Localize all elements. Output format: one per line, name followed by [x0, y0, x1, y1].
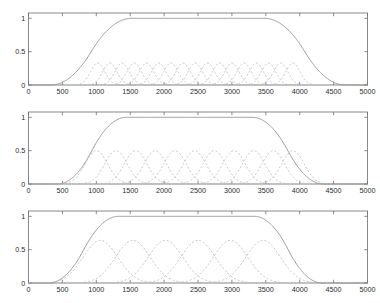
- x-tick-label: 500: [56, 186, 68, 195]
- x-tick-label: 4000: [292, 87, 308, 96]
- membership-function-curve: [92, 63, 152, 85]
- membership-function-curve: [239, 63, 299, 85]
- x-tick-label: 1500: [122, 87, 138, 96]
- subplot-2-axes: 0500100015002000250030003500400045005000…: [0, 101, 380, 201]
- x-tick-label: 4500: [326, 186, 342, 195]
- membership-function-curve: [93, 240, 238, 283]
- x-tick-label: 0: [27, 285, 31, 294]
- x-tick-label: 3500: [258, 186, 274, 195]
- x-tick-label: 0: [27, 87, 31, 96]
- x-tick-label: 4000: [292, 186, 308, 195]
- y-tick-label: 0.5: [15, 146, 25, 155]
- x-tick-label: 2500: [190, 186, 206, 195]
- x-tick-label: 1500: [122, 186, 138, 195]
- x-tick-label: 5000: [360, 285, 376, 294]
- subplot-1: 0500100015002000250030003500400045005000…: [0, 2, 380, 102]
- y-tick-label: 0: [21, 279, 25, 288]
- membership-function-curve: [104, 63, 164, 85]
- membership-function-curve: [80, 63, 140, 85]
- membership-function-curve: [29, 240, 173, 283]
- membership-function-curve: [226, 63, 286, 85]
- y-tick-label: 0: [21, 81, 25, 90]
- membership-function-curve: [141, 63, 201, 85]
- membership-function-curve: [129, 63, 189, 85]
- x-tick-label: 2500: [190, 87, 206, 96]
- membership-function-curve: [125, 240, 270, 283]
- membership-function-curve: [165, 63, 225, 85]
- x-tick-label: 3500: [258, 285, 274, 294]
- x-tick-label: 0: [27, 186, 31, 195]
- membership-function-curve: [153, 63, 213, 85]
- subplot-2: 0500100015002000250030003500400045005000…: [0, 101, 380, 201]
- membership-function-curve: [68, 63, 128, 85]
- x-tick-label: 1500: [122, 285, 138, 294]
- x-tick-label: 3500: [258, 87, 274, 96]
- y-tick-label: 0: [21, 180, 25, 189]
- x-tick-label: 500: [56, 87, 68, 96]
- membership-function-curve: [158, 240, 303, 283]
- y-tick-label: 0.5: [15, 47, 25, 56]
- subplot-1-axes: 0500100015002000250030003500400045005000…: [0, 2, 380, 102]
- membership-function-curve: [214, 63, 274, 85]
- x-tick-label: 5000: [360, 87, 376, 96]
- envelope-curve: [29, 18, 368, 85]
- x-tick-label: 4500: [326, 87, 342, 96]
- membership-function-curve: [178, 63, 238, 85]
- membership-function-curve: [60, 240, 205, 283]
- x-tick-label: 2000: [156, 285, 172, 294]
- x-tick-label: 2000: [156, 87, 172, 96]
- y-tick-label: 0.5: [15, 245, 25, 254]
- x-tick-label: 3000: [224, 87, 240, 96]
- subplot-3-axes: 0500100015002000250030003500400045005000…: [0, 200, 380, 303]
- x-tick-label: 1000: [88, 285, 104, 294]
- x-tick-label: 2500: [190, 285, 206, 294]
- membership-function-curve: [190, 240, 335, 283]
- x-tick-label: 1000: [88, 186, 104, 195]
- x-tick-label: 500: [56, 285, 68, 294]
- membership-function-curve: [263, 63, 323, 85]
- x-tick-label: 1000: [88, 87, 104, 96]
- membership-function-curve: [117, 63, 177, 85]
- membership-function-curve: [190, 63, 250, 85]
- y-tick-label: 1: [21, 212, 25, 221]
- x-tick-label: 4500: [326, 285, 342, 294]
- y-tick-label: 1: [21, 14, 25, 23]
- membership-function-curve: [251, 63, 311, 85]
- x-tick-label: 3000: [224, 285, 240, 294]
- x-tick-label: 5000: [360, 186, 376, 195]
- x-tick-label: 4000: [292, 285, 308, 294]
- subplot-3: 0500100015002000250030003500400045005000…: [0, 200, 380, 303]
- x-tick-label: 3000: [224, 186, 240, 195]
- envelope-curve: [29, 216, 368, 283]
- y-tick-label: 1: [21, 113, 25, 122]
- x-tick-label: 2000: [156, 186, 172, 195]
- figure-canvas: 0500100015002000250030003500400045005000…: [0, 0, 380, 303]
- membership-function-curve: [202, 63, 262, 85]
